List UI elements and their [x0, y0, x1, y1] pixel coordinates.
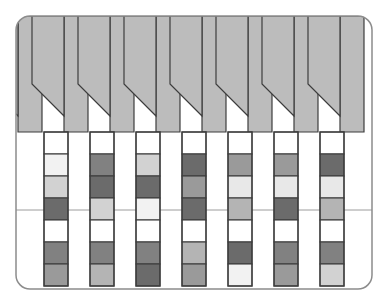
column-2-block-4 — [90, 198, 114, 220]
column-1-block-4 — [44, 198, 68, 220]
column-7-block-6 — [320, 242, 344, 264]
column-5 — [228, 132, 252, 286]
column-4-block-2 — [182, 154, 206, 176]
column-3-block-7 — [136, 264, 160, 286]
column-3-block-3 — [136, 176, 160, 198]
column-5-block-2 — [228, 154, 252, 176]
column-6-block-7 — [274, 264, 298, 286]
column-7-block-2 — [320, 154, 344, 176]
column-5-block-7 — [228, 264, 252, 286]
column-2-block-7 — [90, 264, 114, 286]
column-7-block-5 — [320, 220, 344, 242]
column-5-block-1 — [228, 132, 252, 154]
column-6-block-3 — [274, 176, 298, 198]
column-2 — [90, 132, 114, 286]
column-5-block-4 — [228, 198, 252, 220]
column-3 — [136, 132, 160, 286]
column-4 — [182, 132, 206, 286]
column-1-block-3 — [44, 176, 68, 198]
column-5-block-3 — [228, 176, 252, 198]
column-2-block-3 — [90, 176, 114, 198]
stripe-block-diagram — [0, 0, 388, 305]
column-6-block-5 — [274, 220, 298, 242]
column-4-block-1 — [182, 132, 206, 154]
column-1 — [44, 132, 68, 286]
column-3-block-5 — [136, 220, 160, 242]
column-1-block-7 — [44, 264, 68, 286]
figure-canvas — [0, 0, 388, 305]
column-6-block-1 — [274, 132, 298, 154]
column-3-block-4 — [136, 198, 160, 220]
column-5-block-5 — [228, 220, 252, 242]
column-7-block-4 — [320, 198, 344, 220]
column-6-block-2 — [274, 154, 298, 176]
column-3-block-1 — [136, 132, 160, 154]
column-7 — [320, 132, 344, 286]
column-2-block-6 — [90, 242, 114, 264]
column-4-block-6 — [182, 242, 206, 264]
column-3-block-6 — [136, 242, 160, 264]
column-2-block-1 — [90, 132, 114, 154]
column-2-block-2 — [90, 154, 114, 176]
column-6 — [274, 132, 298, 286]
column-7-block-1 — [320, 132, 344, 154]
column-7-block-3 — [320, 176, 344, 198]
column-1-block-5 — [44, 220, 68, 242]
column-1-block-6 — [44, 242, 68, 264]
column-4-block-4 — [182, 198, 206, 220]
column-4-block-5 — [182, 220, 206, 242]
column-3-block-2 — [136, 154, 160, 176]
column-6-block-6 — [274, 242, 298, 264]
column-4-block-7 — [182, 264, 206, 286]
column-7-block-7 — [320, 264, 344, 286]
column-4-block-3 — [182, 176, 206, 198]
column-1-block-2 — [44, 154, 68, 176]
column-5-block-6 — [228, 242, 252, 264]
column-1-block-1 — [44, 132, 68, 154]
column-6-block-4 — [274, 198, 298, 220]
column-2-block-5 — [90, 220, 114, 242]
band-segment-8 — [340, 16, 364, 132]
